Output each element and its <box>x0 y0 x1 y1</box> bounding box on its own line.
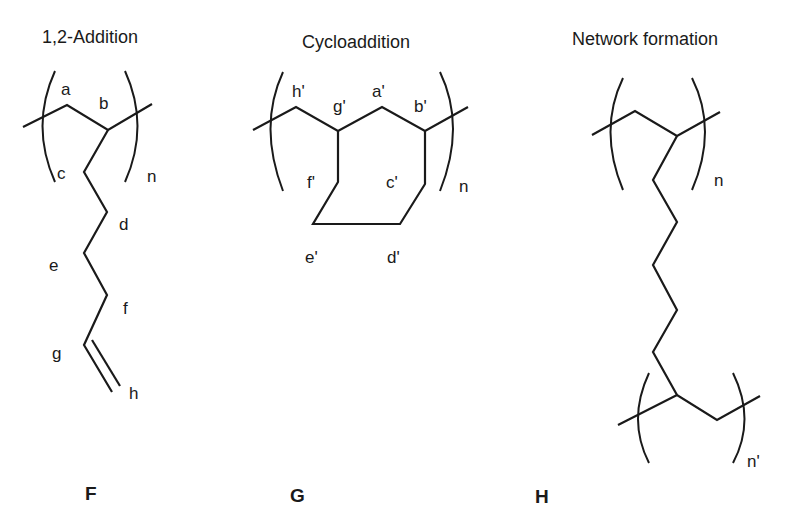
compound-label-g: G <box>290 486 305 505</box>
compound-label-h: H <box>535 487 549 506</box>
g-backbone <box>253 107 468 131</box>
atom-label-e: e <box>49 257 58 274</box>
g-left-paren <box>271 72 284 191</box>
atom-label-g: g <box>52 345 61 362</box>
atom-label-a-prime: a' <box>372 83 385 100</box>
f-right-paren <box>125 71 138 182</box>
repeat-subscript-n-g: n <box>459 178 468 195</box>
structure-g <box>253 72 468 224</box>
atom-label-e-prime: e' <box>305 249 318 266</box>
atom-label-f: f <box>123 300 128 317</box>
atom-label-d: d <box>119 216 128 233</box>
repeat-subscript-n-f: n <box>147 168 156 185</box>
title-1-2-addition: 1,2-Addition <box>42 28 138 46</box>
atom-label-c: c <box>57 165 66 182</box>
atom-label-f-prime: f' <box>307 174 315 191</box>
atom-label-h: h <box>129 385 138 402</box>
h-bottom-right-paren <box>733 373 745 463</box>
atom-label-b-prime: b' <box>414 98 427 115</box>
h-top-right-paren <box>692 78 705 190</box>
g-ring <box>313 131 425 224</box>
h-top-left-paren <box>611 78 624 190</box>
atom-label-d-prime: d' <box>387 249 400 266</box>
g-right-paren <box>440 72 453 191</box>
f-double-bond <box>92 340 120 386</box>
atom-label-g-prime: g' <box>333 98 346 115</box>
atom-label-c-prime: c' <box>386 174 398 191</box>
atom-label-b: b <box>99 95 108 112</box>
atom-label-a: a <box>61 81 70 98</box>
h-crosslink-chain <box>653 136 677 395</box>
repeat-subscript-n-prime-h: n' <box>747 453 760 470</box>
f-left-paren <box>43 71 56 182</box>
title-network-formation: Network formation <box>572 30 718 48</box>
title-cycloaddition: Cycloaddition <box>302 33 410 51</box>
compound-label-f: F <box>85 484 97 503</box>
structure-h <box>592 78 760 463</box>
h-bottom-left-paren <box>638 373 649 463</box>
structure-f <box>23 71 152 392</box>
f-side-chain <box>84 130 112 392</box>
repeat-subscript-n-h: n <box>714 172 723 189</box>
atom-label-h-prime: h' <box>292 83 305 100</box>
